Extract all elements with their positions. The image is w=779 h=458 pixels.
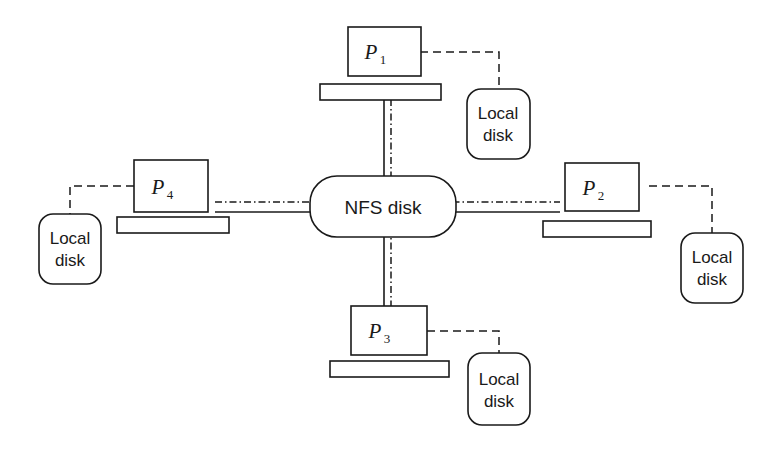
processor-node-p3[interactable]: P 3: [351, 306, 427, 355]
local-disk-node-p2[interactable]: Local disk: [681, 233, 743, 303]
processor-label-p2: P: [582, 176, 596, 200]
local-disk-label-p4-line1: Local: [50, 229, 91, 248]
processor-label-p3: P: [368, 319, 382, 343]
local-disk-node-p4[interactable]: Local disk: [39, 214, 101, 284]
processor-node-p4[interactable]: P 4: [134, 160, 208, 212]
local-disk-shape-p1[interactable]: [467, 89, 530, 159]
bus-bar-p1: [320, 84, 441, 100]
connection-p4-localdisk: [70, 186, 134, 215]
nfs-disk-label: NFS disk: [344, 197, 422, 218]
processor-box-p4[interactable]: [134, 160, 208, 212]
bus-bar-p3: [330, 361, 449, 377]
local-disk-shape-p4[interactable]: [39, 214, 101, 284]
diagram-canvas: P 1 P 2 P 3 P 4 NFS disk Local disk: [0, 0, 779, 458]
local-disk-node-p3[interactable]: Local disk: [468, 353, 530, 425]
processor-subscript-p3: 3: [384, 331, 391, 346]
local-disk-shape-p3[interactable]: [468, 353, 530, 425]
connection-p3-localdisk: [427, 331, 499, 354]
processor-node-p2[interactable]: P 2: [565, 163, 639, 211]
processor-box-p2[interactable]: [565, 163, 639, 211]
local-disk-label-p3-line1: Local: [479, 370, 520, 389]
processor-subscript-p4: 4: [167, 187, 174, 202]
bus-bar-p2: [543, 221, 651, 237]
diagram-svg: P 1 P 2 P 3 P 4 NFS disk Local disk: [0, 0, 779, 458]
local-disk-node-p1[interactable]: Local disk: [467, 89, 530, 159]
connection-p2-localdisk: [649, 186, 712, 234]
local-disk-label-p1-line2: disk: [483, 126, 514, 145]
local-disk-label-p1-line1: Local: [478, 104, 519, 123]
local-disk-label-p3-line2: disk: [484, 392, 515, 411]
bus-bar-p4: [117, 217, 229, 233]
processor-label-p1: P: [364, 40, 378, 64]
local-disk-label-p2-line2: disk: [697, 270, 728, 289]
processor-node-p1[interactable]: P 1: [348, 27, 421, 76]
local-disk-label-p4-line2: disk: [55, 251, 86, 270]
local-disk-shape-p2[interactable]: [681, 233, 743, 303]
processor-label-p4: P: [151, 175, 165, 199]
processor-subscript-p2: 2: [598, 188, 605, 203]
local-disk-label-p2-line1: Local: [692, 248, 733, 267]
connection-p1-nfs: [384, 99, 391, 182]
connection-p3-nfs: [384, 228, 391, 312]
processor-subscript-p1: 1: [380, 52, 387, 67]
nfs-disk-node[interactable]: NFS disk: [310, 176, 456, 237]
